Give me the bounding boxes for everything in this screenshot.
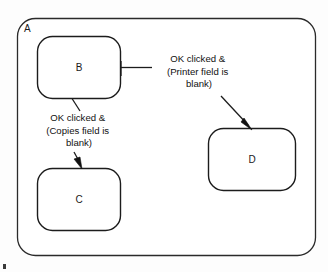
- diagram-canvas: A B C D OK clicked & (Printer field is b…: [0, 0, 328, 272]
- statechart-diagram: A B C D OK clicked & (Printer field is b…: [0, 0, 328, 272]
- state-c-label: C: [75, 194, 82, 205]
- state-d-label: D: [248, 154, 255, 165]
- scan-artifact-mark: [3, 264, 6, 269]
- outer-state-a-label: A: [24, 23, 31, 34]
- state-b-label: B: [76, 62, 83, 73]
